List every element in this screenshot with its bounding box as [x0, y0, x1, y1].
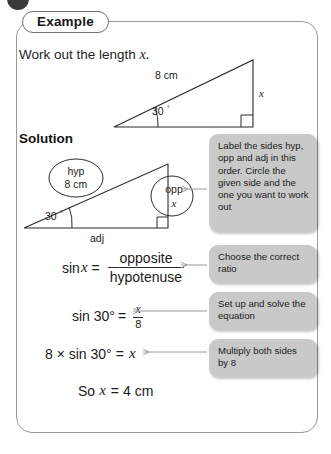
callout-set-up-solve: Set up and solve the equation — [209, 292, 317, 330]
equation-multiplied-lhs: 8 × sin 30° — [45, 346, 112, 362]
opp-circle-line2: x — [171, 197, 177, 209]
solution-heading: Solution — [19, 131, 73, 146]
equation-answer-prefix: So — [78, 383, 95, 399]
equation-ratio: sin x = opposite hypotenuse — [62, 250, 184, 285]
hypotenuse-length-label: 8 cm — [155, 69, 178, 81]
adjacent-side-label: adj — [90, 232, 104, 244]
fraction-numerator: opposite — [118, 250, 175, 267]
equation-answer: So x = 4 cm — [78, 382, 153, 399]
hyp-circle-line2: 8 cm — [65, 178, 88, 190]
opposite-side-label: x — [258, 87, 264, 99]
equation-answer-value: 4 cm — [123, 383, 153, 399]
bullet-circle-icon — [7, 0, 29, 10]
equation-multiplied-rhs: x — [128, 345, 137, 362]
equation-substituted: sin 30° = x 8 — [72, 302, 143, 330]
equation-answer-equals: = — [107, 383, 123, 399]
callout-choose-ratio: Choose the correct ratio — [209, 245, 317, 283]
equation-ratio-sin: sin — [62, 260, 80, 276]
fraction-numerator: x — [134, 302, 143, 317]
svg-text:°: ° — [60, 210, 63, 217]
svg-text:°: ° — [167, 105, 170, 112]
fraction-opposite-hypotenuse: opposite hypotenuse — [108, 250, 184, 285]
fraction-denominator: 8 — [133, 318, 143, 330]
callout-label-sides: Label the sides hyp, opp and adj in this… — [209, 134, 317, 232]
hyp-circle-line1: hyp — [68, 165, 85, 177]
equation-substituted-lhs: sin 30° — [72, 308, 115, 324]
angle-label-30: 30 — [45, 210, 57, 222]
equation-substituted-equals: = — [115, 308, 129, 324]
equation-multiplied: 8 × sin 30° = x — [45, 345, 137, 362]
example-tab-label: Example — [22, 11, 109, 33]
equation-ratio-equals: = — [89, 260, 103, 276]
callout-multiply-both: Multiply both sides by 8 — [209, 339, 317, 377]
fraction-denominator: hypotenuse — [108, 268, 184, 285]
equation-ratio-var: x — [80, 259, 89, 276]
equation-answer-var: x — [95, 382, 107, 399]
fraction-x-over-8: x 8 — [133, 302, 143, 330]
right-triangle-solution-diagram: 30 ° hyp 8 cm opp x adj — [16, 148, 216, 248]
opp-circle-line1: opp — [165, 183, 183, 195]
angle-label-30: 30 — [152, 105, 164, 117]
equation-multiplied-equals: = — [112, 346, 128, 362]
right-triangle-question-diagram: 30 ° 8 cm x — [110, 55, 270, 133]
